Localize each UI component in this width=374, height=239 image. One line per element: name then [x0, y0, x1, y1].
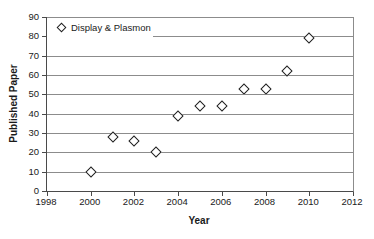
y-tick-mark: [42, 17, 46, 18]
y-tick-mark: [42, 172, 46, 173]
legend-label: Display & Plasmon: [71, 22, 151, 33]
y-axis-tick-label-70: 70: [0, 50, 39, 62]
x-axis-tick-label-2004: 2004: [157, 196, 197, 208]
x-axis-title: Year: [46, 215, 352, 226]
y-axis-tick-label-90: 90: [0, 11, 39, 23]
y-axis-tick-label-80: 80: [0, 30, 39, 42]
x-axis-tick-label-2010: 2010: [288, 196, 328, 208]
gridline-y-50: [47, 94, 353, 95]
scatter-chart: Published Paper Display & Plasmon Year 0…: [0, 0, 374, 239]
gridline-y-30: [47, 133, 353, 134]
data-point-2003: [151, 147, 162, 158]
y-axis-tick-label-10: 10: [0, 166, 39, 178]
y-tick-mark: [42, 191, 46, 192]
gridline-y-60: [47, 75, 353, 76]
y-tick-mark: [42, 36, 46, 37]
x-axis-tick-label-2006: 2006: [201, 196, 241, 208]
y-axis-tick-label-40: 40: [0, 108, 39, 120]
x-axis-tick-label-1998: 1998: [26, 196, 66, 208]
x-axis-tick-label-2008: 2008: [245, 196, 285, 208]
data-point-2007: [238, 83, 249, 94]
gridline-y-70: [47, 56, 353, 57]
x-axis-tick-label-2012: 2012: [332, 196, 372, 208]
data-point-2004: [172, 110, 183, 121]
y-tick-mark: [42, 75, 46, 76]
y-tick-mark: [42, 114, 46, 115]
gridline-y-20: [47, 152, 353, 153]
data-point-2002: [129, 135, 140, 146]
data-point-2000: [85, 166, 96, 177]
y-axis-tick-label-20: 20: [0, 146, 39, 158]
y-tick-mark: [42, 133, 46, 134]
data-point-2006: [216, 100, 227, 111]
y-axis-tick-label-50: 50: [0, 88, 39, 100]
y-tick-mark: [42, 56, 46, 57]
x-axis-tick-label-2002: 2002: [113, 196, 153, 208]
gridline-y-40: [47, 114, 353, 115]
plot-area: [46, 17, 354, 192]
y-tick-mark: [42, 152, 46, 153]
x-axis-tick-label-2000: 2000: [70, 196, 110, 208]
open-diamond-marker-icon: [57, 23, 67, 33]
y-axis-tick-label-30: 30: [0, 127, 39, 139]
y-axis-tick-label-60: 60: [0, 69, 39, 81]
legend: Display & Plasmon: [47, 18, 153, 37]
data-point-2008: [260, 83, 271, 94]
y-tick-mark: [42, 94, 46, 95]
data-point-2005: [194, 100, 205, 111]
data-point-2010: [304, 33, 315, 44]
